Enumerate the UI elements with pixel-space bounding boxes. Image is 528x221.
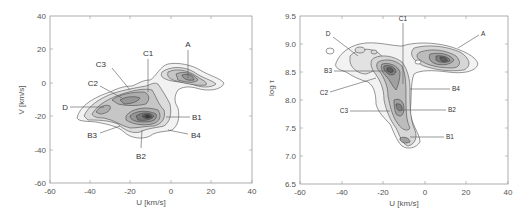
left-label-C2: C2 [88,79,99,88]
right-xtick-label: -20 [377,188,389,197]
right-label-B1: B1 [446,133,454,140]
left-ytick-label: 20 [37,45,46,54]
right-label-C1: C1 [399,15,408,22]
right-ytick-label: 7.5 [285,124,297,133]
left-ytick-label: 40 [37,12,46,21]
left-y-axis-title: V [km/s] [17,86,26,115]
figure: 40 20 0 -20 -40 -60 -60 -40 -20 0 20 40 … [0,0,528,221]
right-x-axis-title: U [km/s] [389,199,418,208]
right-label-C3: C3 [340,107,349,114]
left-xtick-label: -20 [124,187,136,196]
right-xtick-label: -60 [294,188,306,197]
right-xtick-label: 20 [462,188,471,197]
right-ytick-label: 9.5 [285,12,297,21]
left-ytick-label: -40 [34,146,46,155]
left-ytick-label: 0 [42,79,47,88]
left-label-A: A [185,40,191,49]
right-ytick-label: 8.0 [285,96,297,105]
left-xtick-label: -40 [84,187,96,196]
right-label-D: D [326,30,331,37]
left-xtick-label: -60 [44,187,56,196]
left-xtick-label: 0 [169,187,174,196]
left-contours [77,63,224,138]
right-xtick-label: 40 [504,188,513,197]
right-panel: 9.5 9.0 8.5 8.0 7.5 7.0 6.5 -60 -40 -20 … [267,12,513,208]
right-label-C2: C2 [320,89,329,96]
left-label-C3: C3 [96,60,107,69]
left-label-C1: C1 [143,49,154,58]
left-xtick-label: 40 [248,187,257,196]
right-contours [326,43,478,148]
right-label-B2: B2 [448,106,456,113]
right-label-A: A [481,30,486,37]
left-label-B4: B4 [191,131,201,140]
right-xtick-label: -40 [336,188,348,197]
left-panel: 40 20 0 -20 -40 -60 -60 -40 -20 0 20 40 … [17,12,257,207]
right-xtick-label: 0 [423,188,428,197]
left-label-B1: B1 [192,113,202,122]
left-ytick-label: -20 [34,112,46,121]
left-xtick-label: 20 [207,187,216,196]
left-label-B3: B3 [87,131,97,140]
left-x-axis-title: U [km/s] [136,198,165,207]
right-y-axis-title: log τ [267,79,276,96]
right-ytick-label: 8.5 [285,68,297,77]
left-label-D: D [62,103,68,112]
right-ytick-label: 7.0 [285,152,297,161]
right-ytick-label: 9.0 [285,40,297,49]
right-label-B4: B4 [452,85,460,92]
right-label-B3: B3 [324,67,332,74]
left-label-B2: B2 [136,152,146,161]
